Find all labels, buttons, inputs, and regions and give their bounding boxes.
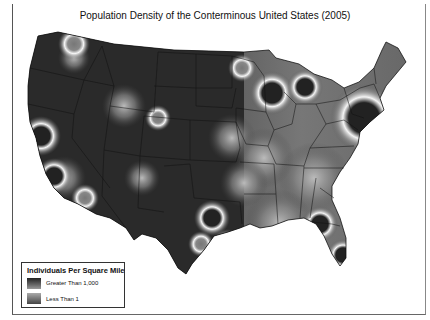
legend-label-low: Less Than 1 — [46, 296, 79, 302]
legend-label-high: Greater Than 1,000 — [46, 280, 98, 286]
legend-swatch-low — [27, 293, 41, 304]
us-density-map — [14, 28, 424, 298]
map-title: Population Density of the Conterminous U… — [0, 10, 430, 21]
legend-swatch-high — [27, 278, 41, 289]
legend-title: Individuals Per Square Mile — [27, 266, 125, 275]
legend: Individuals Per Square Mile Greater Than… — [21, 262, 125, 308]
